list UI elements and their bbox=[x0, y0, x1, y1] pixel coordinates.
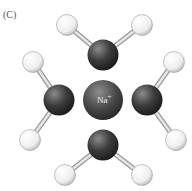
hydrogen-atom bbox=[57, 15, 78, 36]
water-right-molecule bbox=[132, 52, 187, 151]
hydrogen-atom bbox=[132, 15, 153, 36]
oxygen-atom bbox=[132, 85, 163, 116]
sodium-hydration-diagram: (C) Na+ bbox=[0, 0, 192, 191]
sodium-ion: Na+ bbox=[83, 80, 123, 120]
oxygen-atom bbox=[44, 85, 75, 116]
oxygen-atom bbox=[88, 40, 119, 71]
hydrogen-atom bbox=[23, 52, 44, 73]
hydrogen-atom bbox=[166, 130, 187, 151]
water-bottom-molecule bbox=[55, 130, 153, 186]
water-left-molecule bbox=[20, 52, 75, 151]
hydrogen-atom bbox=[20, 130, 41, 151]
molecule-drawing: Na+ bbox=[0, 0, 192, 191]
hydrogen-atom bbox=[55, 165, 76, 186]
hydrogen-atom bbox=[132, 165, 153, 186]
hydrogen-atom bbox=[164, 52, 185, 73]
water-top-molecule bbox=[57, 15, 153, 71]
oxygen-atom bbox=[88, 130, 119, 161]
